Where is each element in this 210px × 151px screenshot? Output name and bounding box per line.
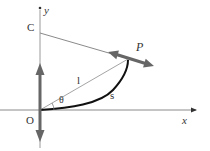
angle-label: θ bbox=[59, 94, 64, 105]
pendulum-diagram: y x C O P l s θ bbox=[0, 0, 210, 151]
point-p-label: P bbox=[135, 40, 144, 54]
origin-label: O bbox=[26, 114, 34, 126]
x-axis-label: x bbox=[181, 114, 187, 126]
line-o-to-p bbox=[40, 59, 128, 110]
point-c-label: C bbox=[27, 21, 34, 33]
arc-length-label: s bbox=[110, 89, 114, 101]
y-axis-label: y bbox=[43, 4, 49, 16]
length-label: l bbox=[77, 74, 80, 86]
vertical-double-arrow-icon bbox=[36, 63, 45, 142]
y-axis-arrow-icon bbox=[39, 7, 42, 10]
